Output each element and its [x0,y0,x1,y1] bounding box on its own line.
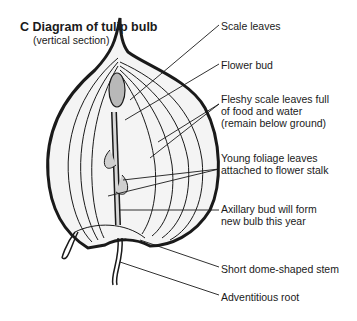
flower-bud-shape [109,73,125,107]
label-adventitious-root: Adventitious root [221,291,299,303]
bulb-outline [48,18,219,248]
label-axillary-bud: Axillary bud will form new bulb this yea… [221,203,317,227]
label-fleshy-scale-leaves: Fleshy scale leaves full of food and wat… [221,93,329,129]
label-flower-bud: Flower bud [221,59,273,71]
label-young-foliage-leaves: Young foliage leaves attached to flower … [221,152,328,176]
label-scale-leaves: Scale leaves [221,20,281,32]
label-stem: Short dome-shaped stem [221,263,339,275]
